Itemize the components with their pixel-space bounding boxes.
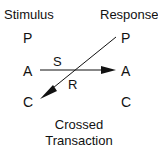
response-arrow-line [48,37,116,92]
caption-line1: Crossed [0,117,158,133]
caption-line2: Transaction [0,133,158,149]
stimulus-arrowhead-icon [101,66,116,74]
